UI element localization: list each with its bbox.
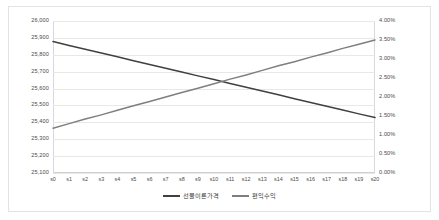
right-axis-tick: 3.00% [379, 56, 395, 62]
legend-item-label: 편익수익 [252, 193, 276, 199]
right-axis-tick: 0.50% [379, 151, 395, 157]
x-axis-tick: s18 [338, 177, 347, 182]
left-axis-tick: 25,500 [31, 102, 49, 108]
chart-card: 25,10025,20025,30025,40025,50025,60025,7… [8, 6, 431, 212]
left-axis-tick: 25,700 [31, 69, 49, 75]
x-axis-tick: s0 [50, 177, 56, 182]
legend-swatch-icon [232, 195, 249, 197]
chart-legend: 선물이론가격편익수익 [9, 193, 430, 199]
legend-item[interactable]: 선물이론가격 [163, 193, 219, 199]
legend-item[interactable]: 편익수익 [232, 193, 276, 199]
left-axis-tick: 25,800 [31, 52, 49, 58]
series-lines [53, 21, 375, 173]
right-axis-tick: 3.50% [379, 37, 395, 43]
x-axis-tick: s5 [131, 177, 137, 182]
x-axis-tick: s9 [195, 177, 201, 182]
right-axis-tick: 1.00% [379, 132, 395, 138]
x-axis-tick: s17 [322, 177, 331, 182]
x-axis-tick: s14 [274, 177, 283, 182]
left-axis-tick: 26,000 [31, 18, 49, 24]
x-axis-tick: s4 [115, 177, 121, 182]
x-axis-tick: s3 [98, 177, 104, 182]
gridline [53, 173, 375, 174]
right-axis-tick: 2.50% [379, 75, 395, 81]
x-axis-tick: s13 [258, 177, 267, 182]
right-axis-tick: 0.00% [379, 170, 395, 176]
x-axis-tick: s10 [210, 177, 219, 182]
x-axis-tick: s19 [355, 177, 364, 182]
x-axis-tick: s20 [371, 177, 380, 182]
x-axis-tick: s15 [290, 177, 299, 182]
x-axis-tick: s7 [163, 177, 169, 182]
x-axis-tick: s2 [82, 177, 88, 182]
plot-area: 25,10025,20025,30025,40025,50025,60025,7… [53, 21, 375, 173]
left-axis-tick: 25,100 [31, 170, 49, 176]
x-axis-tick: s11 [226, 177, 234, 182]
left-axis-tick: 25,300 [31, 136, 49, 142]
right-axis-tick: 1.50% [379, 113, 395, 119]
right-axis-tick: 2.00% [379, 94, 395, 100]
x-axis-tick: s16 [306, 177, 315, 182]
x-axis-tick: s6 [147, 177, 153, 182]
left-axis-tick: 25,200 [31, 153, 49, 159]
legend-swatch-icon [163, 195, 180, 197]
left-axis-tick: 25,600 [31, 86, 49, 92]
legend-item-label: 선물이론가격 [183, 193, 219, 199]
left-axis-tick: 25,400 [31, 119, 49, 125]
right-axis-tick: 4.00% [379, 18, 395, 24]
left-axis-tick: 25,900 [31, 35, 49, 41]
x-axis-tick: s1 [66, 177, 72, 182]
x-axis-tick: s12 [242, 177, 251, 182]
x-axis-tick: s8 [179, 177, 185, 182]
